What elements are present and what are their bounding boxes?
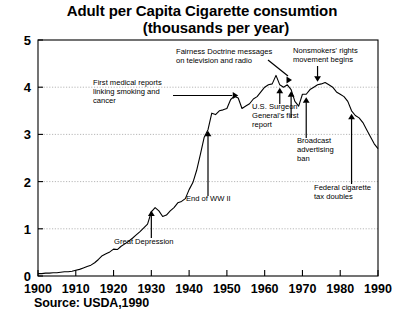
arrowhead xyxy=(148,211,155,217)
annotation-nonsmokers-rights: Nonsmokers' rights xyxy=(293,46,358,55)
annotation-first-medical-reports: linking smoking and xyxy=(93,87,160,96)
xtick-label-1920: 1920 xyxy=(100,282,128,296)
ytick-label-3: 3 xyxy=(24,127,31,142)
leader-fairness-doctrine-diagonal xyxy=(268,60,288,76)
annotation-us-surgeon-general-report: General's first xyxy=(252,111,299,120)
annotation-broadcast-advertising-ban: ban xyxy=(297,154,310,163)
xtick-label-1990: 1990 xyxy=(364,282,392,296)
xtick-label-1940: 1940 xyxy=(175,282,203,296)
ytick-label-2: 2 xyxy=(24,175,31,190)
annotation-first-medical-reports: First medical reports xyxy=(93,78,162,87)
arrowhead xyxy=(287,77,293,84)
arrowhead xyxy=(314,76,321,82)
xtick-label-1910: 1910 xyxy=(62,282,90,296)
chart-figure: Adult per Capita Cigarette consumtion (t… xyxy=(0,0,404,323)
arrowhead xyxy=(288,91,295,97)
annotation-fairness-doctrine: Fairness Doctrine messages xyxy=(176,47,272,56)
chart-plot-area: 0123451900191019201930194019501960197019… xyxy=(0,0,404,323)
annotation-fairness-doctrine: on television and radio xyxy=(176,56,252,65)
annotation-nonsmokers-rights: movement begins xyxy=(293,55,353,64)
annotation-federal-cigarette-tax-doubles: tax doubles xyxy=(314,192,353,201)
arrowhead xyxy=(276,88,283,94)
annotation-us-surgeon-general-report: report xyxy=(252,120,273,129)
annotation-federal-cigarette-tax-doubles: Federal cigarette xyxy=(314,183,371,192)
ytick-label-4: 4 xyxy=(24,80,32,95)
annotation-us-surgeon-general-report: U.S. Surgeon xyxy=(252,102,298,111)
xtick-label-1900: 1900 xyxy=(24,282,52,296)
annotation-broadcast-advertising-ban: Broadcast xyxy=(297,136,332,145)
xtick-label-1980: 1980 xyxy=(326,282,354,296)
xtick-label-1970: 1970 xyxy=(289,282,317,296)
chart-source-note: Source: USDA,1990 xyxy=(34,296,149,310)
annotation-first-medical-reports: cancer xyxy=(93,96,116,105)
xtick-label-1950: 1950 xyxy=(213,282,241,296)
xtick-label-1930: 1930 xyxy=(137,282,165,296)
annotation-great-depression: Great Depression xyxy=(114,237,174,246)
ytick-label-5: 5 xyxy=(24,33,31,48)
xtick-label-1960: 1960 xyxy=(251,282,279,296)
annotation-broadcast-advertising-ban: advertising xyxy=(297,145,334,154)
arrowhead xyxy=(303,97,310,103)
ytick-label-1: 1 xyxy=(24,222,31,237)
